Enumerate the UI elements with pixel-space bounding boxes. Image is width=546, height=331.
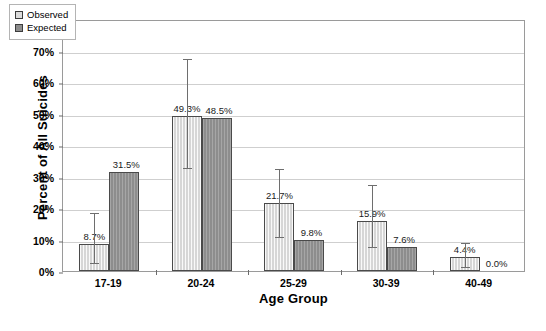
bar-expected	[387, 247, 417, 271]
legend-item-expected: Expected	[15, 22, 68, 34]
error-bar	[94, 213, 95, 263]
legend-label-observed: Observed	[27, 10, 68, 20]
legend: Observed Expected	[9, 4, 76, 40]
x-axis-tick-mark	[341, 270, 342, 275]
error-bar-cap-bottom	[183, 168, 192, 169]
bar-expected	[109, 172, 139, 271]
x-axis-tick-label: 17-19	[62, 277, 155, 289]
error-bar	[372, 185, 373, 248]
x-axis-tick-mark	[433, 270, 434, 275]
error-bar-cap-top	[368, 185, 377, 186]
bar-group: 49.3%48.5%	[156, 21, 249, 271]
legend-swatch-observed-icon	[15, 11, 23, 19]
x-axis-title: Age Group	[62, 291, 525, 306]
error-bar-cap-top	[183, 59, 192, 60]
x-axis-tick-label: 30-39	[340, 277, 433, 289]
y-axis-tick-label: 40%	[8, 140, 54, 152]
x-axis-tick-label: 25-29	[247, 277, 340, 289]
error-bar-cap-bottom	[90, 263, 99, 264]
plot-area: 8.7%31.5%49.3%48.5%21.7%9.8%15.9%7.6%4.4…	[62, 20, 525, 272]
error-bar-cap-top	[90, 213, 99, 214]
bar-label-expected: 9.8%	[287, 227, 335, 238]
x-axis-tick-label: 40-49	[432, 277, 525, 289]
bar-expected	[294, 240, 324, 271]
error-bar-cap-bottom	[461, 267, 470, 268]
legend-label-expected: Expected	[27, 23, 67, 33]
figure: Percent of All Suicides Age Group 0%10%2…	[0, 0, 546, 331]
y-axis-tick-label: 50%	[8, 109, 54, 121]
y-axis-tick-mark	[59, 273, 63, 274]
y-axis-tick-label: 70%	[8, 46, 54, 58]
x-axis-tick-mark	[156, 270, 157, 275]
y-axis-tick-label: 10%	[8, 235, 54, 247]
error-bar	[187, 59, 188, 169]
y-axis-tick-label: 0%	[8, 266, 54, 278]
error-bar-cap-top	[275, 169, 284, 170]
bar-label-expected: 48.5%	[195, 105, 243, 116]
bar-group: 15.9%7.6%	[341, 21, 434, 271]
error-bar	[465, 243, 466, 268]
y-axis-tick-label: 20%	[8, 203, 54, 215]
x-axis-tick-label: 20-24	[155, 277, 248, 289]
bar-expected	[202, 118, 232, 271]
legend-swatch-expected-icon	[15, 24, 23, 32]
error-bar-cap-top	[461, 243, 470, 244]
error-bar-cap-bottom	[275, 237, 284, 238]
bar-group: 4.4%0.0%	[433, 21, 526, 271]
legend-item-observed: Observed	[15, 9, 68, 21]
bar-label-expected: 0.0%	[473, 258, 521, 269]
error-bar-cap-bottom	[368, 247, 377, 248]
bar-group: 8.7%31.5%	[63, 21, 156, 271]
bar-label-expected: 31.5%	[102, 159, 150, 170]
x-axis-tick-mark	[248, 270, 249, 275]
bar-group: 21.7%9.8%	[248, 21, 341, 271]
error-bar	[279, 169, 280, 238]
bar-label-expected: 7.6%	[380, 234, 428, 245]
y-axis-tick-label: 30%	[8, 172, 54, 184]
y-axis-tick-label: 60%	[8, 77, 54, 89]
